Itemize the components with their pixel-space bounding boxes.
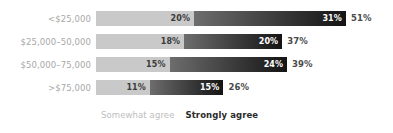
category-label: >$75,000: [0, 83, 96, 93]
chart-rows: <$25,000 20% 31% 51% $25,000–50,000 18% …: [0, 11, 393, 103]
total-value-label: 51%: [346, 11, 372, 26]
segment-value-label: 24%: [264, 60, 287, 69]
table-row: <$25,000 20% 31% 51%: [0, 11, 393, 26]
segment-value-label: 20%: [171, 14, 194, 23]
bar-area: 11% 15% 26%: [96, 80, 393, 95]
bar-segment-somewhat-agree[interactable]: 18%: [96, 34, 184, 49]
bar-area: 15% 24% 39%: [96, 57, 393, 72]
bar-segment-strongly-agree[interactable]: 20%: [184, 34, 282, 49]
segment-value-label: 18%: [161, 37, 184, 46]
legend-item-somewhat-agree[interactable]: Somewhat agree: [101, 110, 174, 120]
category-label: $25,000–50,000: [0, 37, 96, 47]
category-label: <$25,000: [0, 14, 96, 24]
category-label: $50,000–75,000: [0, 60, 96, 70]
table-row: >$75,000 11% 15% 26%: [0, 80, 393, 95]
bar-segment-somewhat-agree[interactable]: 15%: [96, 57, 170, 72]
segment-value-label: 11%: [126, 83, 149, 92]
segment-value-label: 15%: [200, 83, 223, 92]
legend-item-strongly-agree[interactable]: Strongly agree: [185, 110, 258, 120]
total-value-label: 39%: [287, 57, 313, 72]
bar-segment-somewhat-agree[interactable]: 11%: [96, 80, 150, 95]
table-row: $25,000–50,000 18% 20% 37%: [0, 34, 393, 49]
total-value-label: 26%: [223, 80, 249, 95]
total-value-label: 37%: [282, 34, 308, 49]
chart-legend: Somewhat agree Strongly agree: [101, 110, 258, 120]
stacked-bar-chart: <$25,000 20% 31% 51% $25,000–50,000 18% …: [0, 0, 393, 133]
bar-area: 20% 31% 51%: [96, 11, 393, 26]
bar-segment-strongly-agree[interactable]: 15%: [150, 80, 224, 95]
bar-segment-strongly-agree[interactable]: 31%: [194, 11, 346, 26]
bar-segment-strongly-agree[interactable]: 24%: [170, 57, 288, 72]
table-row: $50,000–75,000 15% 24% 39%: [0, 57, 393, 72]
bar-segment-somewhat-agree[interactable]: 20%: [96, 11, 194, 26]
segment-value-label: 31%: [322, 14, 345, 23]
segment-value-label: 15%: [146, 60, 169, 69]
bar-area: 18% 20% 37%: [96, 34, 393, 49]
segment-value-label: 20%: [259, 37, 282, 46]
